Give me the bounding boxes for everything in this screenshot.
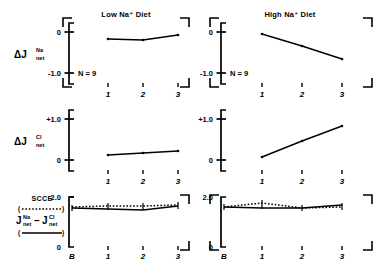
legend-flux-base-b: J: [42, 215, 48, 226]
legend-paren-close-dotted: ): [62, 205, 64, 213]
ytick-row2-left-plus1: +1.0: [46, 115, 61, 124]
legend-flux-sup-a: Na: [23, 214, 31, 220]
xtick-2: 2: [140, 177, 146, 186]
ytick-row1-left-0: 0: [57, 28, 61, 37]
y-axis-row1-right: [217, 23, 227, 84]
ylabel-row2: ΔJ Cl net: [14, 134, 44, 148]
xtick-2: 2: [299, 252, 305, 261]
ylabel-row1-base: ΔJ: [14, 49, 27, 60]
ytick-row3-left-0: 0: [57, 243, 61, 252]
x-ticks-row1-right: [262, 83, 342, 87]
ytick-row2-right-plus1: +1.0: [198, 115, 213, 124]
series-line-scce-row3-left: [72, 205, 178, 207]
xtick-1: 1: [260, 90, 265, 99]
xtick-1: 1: [260, 252, 265, 261]
data-point: [261, 156, 264, 159]
xtick-3: 3: [176, 90, 181, 99]
y-axis-row1-left: [65, 23, 75, 84]
panel-row1-right: 0 -1.0 N = 9 High Na⁺ Diet 1 2 3: [200, 10, 372, 99]
figure-svg: 0 -1.0 N = 9 Low Na⁺ Diet 1 2 3 0 -1.0: [0, 0, 381, 264]
data-point: [341, 125, 344, 128]
x-ticks-row2-right: [262, 170, 342, 174]
data-point: [301, 45, 304, 48]
legend-paren-close-solid: ): [62, 229, 64, 237]
data-point: [142, 152, 145, 155]
legend-flux-minus: –: [34, 215, 40, 226]
y-axis-row2-right: [217, 110, 227, 171]
panel-title-low-na: Low Na⁺ Diet: [101, 10, 151, 19]
xtick-2: 2: [299, 177, 305, 186]
panel-row3-right: 2.0 0 B 1 2 3: [203, 193, 372, 261]
ylabel-row1: ΔJ Na net: [14, 47, 44, 61]
ytick-row2-right-0: 0: [209, 156, 213, 165]
ytick-row1-left-min1: -1.0: [48, 69, 61, 78]
ylabel-row1-sub: net: [36, 55, 44, 61]
data-point: [107, 154, 110, 157]
legend-paren-open-dotted: (: [18, 205, 21, 213]
data-point: [177, 34, 180, 37]
panel-row3-left: 2.0 0 B 1 2 3: [51, 193, 189, 261]
annotation-n-high: N = 9: [230, 69, 248, 78]
legend-paren-open-solid: (: [18, 229, 21, 237]
xtick-baseline: B: [69, 252, 75, 261]
ytick-row3-right-2: 2.0: [203, 193, 213, 202]
x-ticks-row3-right: [262, 246, 342, 250]
corner-brackets-row3-left: [180, 195, 189, 250]
legend-flux-sub-b: net: [49, 221, 57, 227]
xtick-3: 3: [340, 252, 345, 261]
corner-brackets-row3-right: [210, 195, 372, 250]
legend-scce-label: SCCE: [31, 195, 52, 202]
ytick-row1-right-min1: -1.0: [200, 69, 213, 78]
legend-flux-sub-a: net: [23, 221, 31, 227]
xtick-3: 3: [340, 177, 345, 186]
ylabel-row2-sub: net: [36, 142, 44, 148]
ytick-row2-left-0: 0: [57, 156, 61, 165]
ylabel-row1-sup: Na: [36, 47, 44, 53]
figure-panel-grid: 0 -1.0 N = 9 Low Na⁺ Diet 1 2 3 0 -1.0: [0, 0, 381, 264]
data-point: [142, 39, 145, 42]
xtick-2: 2: [140, 252, 146, 261]
data-point: [177, 150, 180, 153]
y-axis-row3-left: [69, 197, 74, 247]
ylabel-row2-sup: Cl: [36, 134, 42, 140]
xtick-1: 1: [106, 252, 111, 261]
x-ticks-row3-left: [108, 246, 178, 250]
xtick-3: 3: [340, 90, 345, 99]
ytick-row3-right-0: 0: [209, 243, 213, 252]
xtick-1: 1: [106, 90, 111, 99]
panel-title-high-na: High Na⁺ Diet: [264, 10, 315, 19]
panel-row1-left: 0 -1.0 N = 9 Low Na⁺ Diet 1 2 3: [48, 10, 189, 99]
ytick-row1-right-0: 0: [209, 28, 213, 37]
panel-row2-right: +1.0 0 1 2 3: [198, 110, 345, 186]
xtick-1: 1: [106, 177, 111, 186]
xtick-3: 3: [176, 177, 181, 186]
xtick-baseline: B: [221, 252, 227, 261]
x-ticks-row2-left: [108, 170, 178, 174]
panel-row2-left: +1.0 0 1 2 3: [46, 110, 181, 186]
data-point: [261, 33, 264, 36]
x-ticks-row1-left: [108, 83, 178, 87]
series-line-flux-row3-left: [72, 206, 178, 210]
data-point: [341, 58, 344, 61]
annotation-n-low: N = 9: [78, 69, 96, 78]
ylabel-row2-base: ΔJ: [14, 136, 27, 147]
xtick-1: 1: [260, 177, 265, 186]
data-point: [301, 140, 304, 143]
y-axis-row2-left: [65, 110, 75, 171]
xtick-2: 2: [299, 90, 305, 99]
legend-flux-sup-b: Cl: [49, 214, 55, 220]
xtick-3: 3: [176, 252, 181, 261]
data-point: [107, 38, 110, 41]
legend-flux-base-a: J: [16, 215, 22, 226]
xtick-2: 2: [140, 90, 146, 99]
